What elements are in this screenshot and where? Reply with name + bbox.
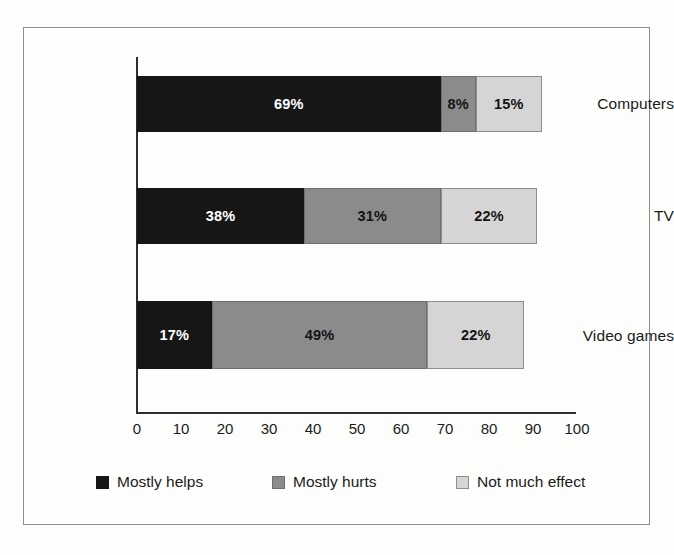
bar-value-video-games-not-much-effect: 22% [461,328,491,343]
x-tick-70: 70 [425,420,465,437]
bar-segment-video-games-not-much-effect: 22% [427,301,524,369]
x-tick-100: 100 [557,420,597,437]
legend-swatch-mostly-helps-icon [96,476,109,489]
bar-value-tv-mostly-helps: 38% [206,209,236,224]
bar-segment-tv-mostly-hurts: 31% [304,188,440,244]
legend-label-not-much-effect: Not much effect [477,473,585,491]
bar-segment-computers-mostly-hurts: 8% [441,76,476,132]
x-axis-line [136,412,576,414]
x-tick-0: 0 [117,420,157,437]
legend-swatch-mostly-hurts-icon [272,476,285,489]
x-tick-50: 50 [337,420,377,437]
legend-swatch-not-much-effect-icon [456,476,469,489]
x-tick-60: 60 [381,420,421,437]
y-axis-label-computers: Computers [544,95,674,113]
legend-label-mostly-helps: Mostly helps [117,473,203,491]
bar-value-computers-mostly-helps: 69% [274,97,304,112]
x-tick-30: 30 [249,420,289,437]
x-tick-20: 20 [205,420,245,437]
bar-value-tv-mostly-hurts: 31% [358,209,388,224]
x-tick-90: 90 [513,420,553,437]
chart-plot-area: Computers TV Video games 69% 8% 15% 38% … [0,0,674,555]
bar-value-computers-not-much-effect: 15% [494,97,524,112]
x-tick-80: 80 [469,420,509,437]
bar-value-video-games-mostly-helps: 17% [160,328,190,343]
legend-label-mostly-hurts: Mostly hurts [293,473,377,491]
bar-segment-computers-mostly-helps: 69% [137,76,441,132]
bar-computers: 69% 8% 15% [137,76,542,132]
x-tick-10: 10 [161,420,201,437]
bar-segment-tv-mostly-helps: 38% [137,188,304,244]
bar-value-video-games-mostly-hurts: 49% [305,328,335,343]
bar-segment-computers-not-much-effect: 15% [476,76,542,132]
bar-segment-tv-not-much-effect: 22% [441,188,538,244]
bar-segment-video-games-mostly-hurts: 49% [212,301,428,369]
y-axis-label-tv: TV [544,207,674,225]
bar-video-games: 17% 49% 22% [137,301,524,369]
bar-segment-video-games-mostly-helps: 17% [137,301,212,369]
legend-item-mostly-helps: Mostly helps [96,473,203,491]
chart-legend: Mostly helps Mostly hurts Not much effec… [0,473,674,503]
legend-item-not-much-effect: Not much effect [456,473,585,491]
chart-figure: Computers TV Video games 69% 8% 15% 38% … [0,0,674,555]
bar-value-computers-mostly-hurts: 8% [448,97,469,112]
bar-tv: 38% 31% 22% [137,188,537,244]
legend-item-mostly-hurts: Mostly hurts [272,473,377,491]
x-tick-40: 40 [293,420,333,437]
y-axis-label-video-games: Video games [544,327,674,345]
bar-value-tv-not-much-effect: 22% [474,209,504,224]
